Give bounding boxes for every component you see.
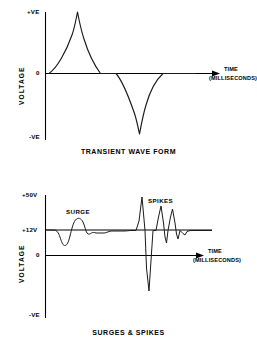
transient-ytick-minus-ve: -VE [29,134,40,140]
surges-ytick-plus-12v: +12V [22,227,37,233]
annotation-spikes: SPIKES [148,198,173,204]
surges-x-axis-caption-line2: (MILLISECONDS) [193,257,241,265]
surges-x-axis-caption-line1: TIME [208,248,222,256]
surges-y-axis-title: VOLTAGE [19,244,26,283]
transient-y-axis-title: VOLTAGE [19,66,26,105]
transient-figure-caption: TRANSIENT WAVE FORM [0,148,257,155]
transient-x-axis-caption-line2: (MILLISECONDS) [209,75,257,83]
annotation-surge: SURGE [66,209,90,215]
transient-ytick-plus-ve: +VE [27,9,39,15]
figure-transient-wave-form: +VE 0 -VE VOLTAGE TIME (MILLISECONDS) TR… [0,0,257,173]
surges-figure-caption: SURGES & SPIKES [0,329,257,336]
transient-ytick-zero: 0 [36,70,40,76]
transient-x-axis-caption-line1: TIME [224,66,238,74]
surges-ytick-plus-50v: +50V [22,192,37,198]
surges-ytick-zero: 0 [36,252,40,258]
figure-surges-and-spikes: +50V +12V 0 -VE VOLTAGE SURGE SPIKES TIM… [0,173,257,346]
surges-ytick-minus-ve: -VE [29,312,40,318]
